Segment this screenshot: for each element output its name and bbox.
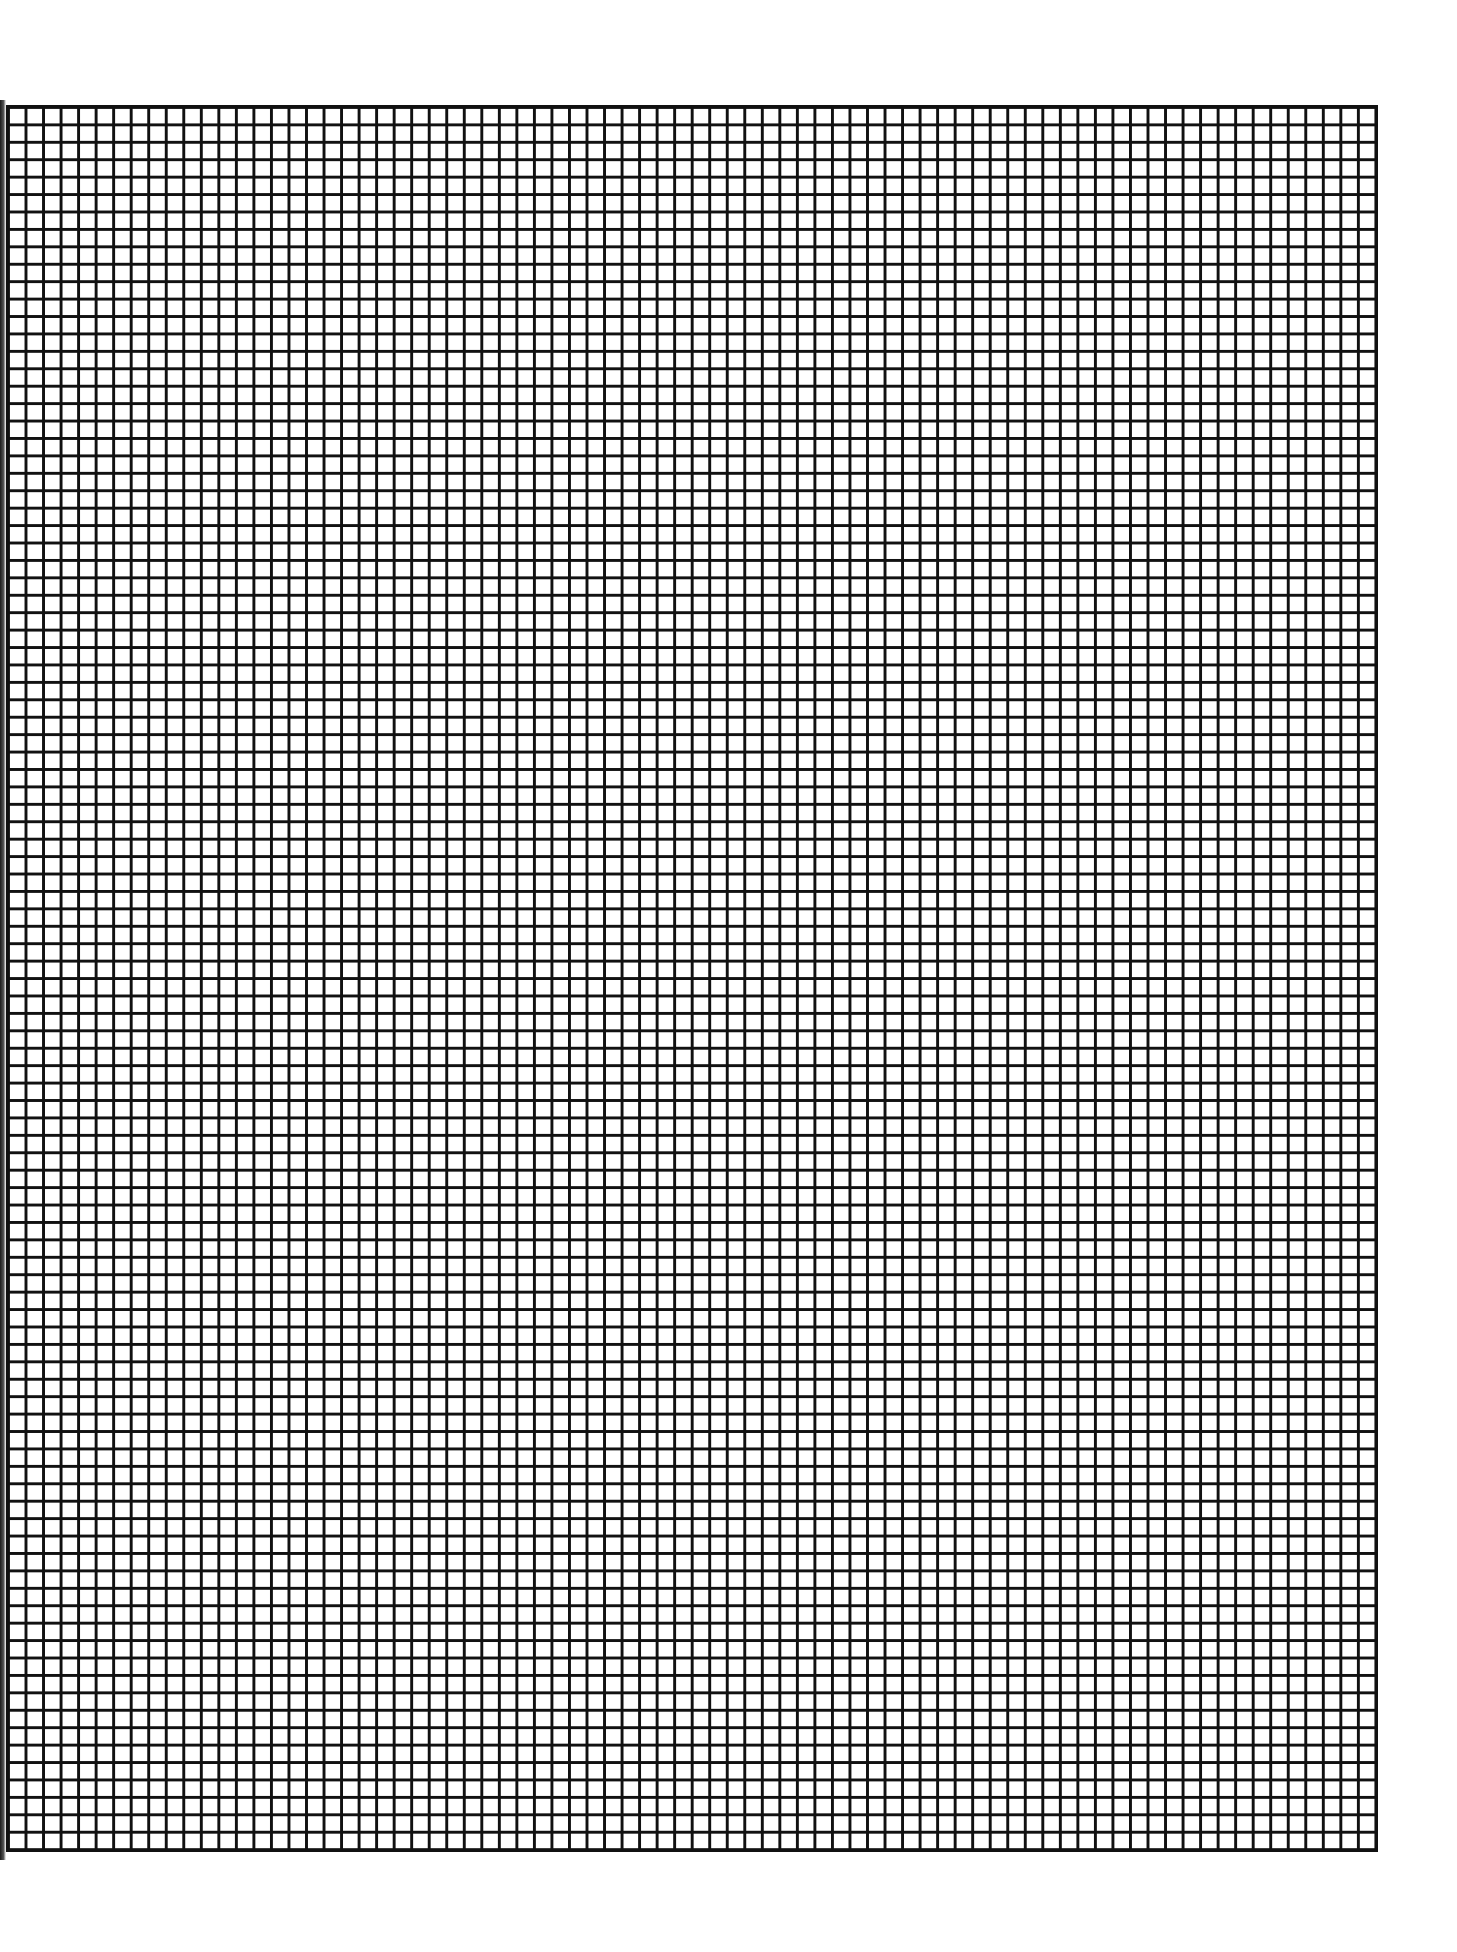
graph-grid <box>6 105 1378 1852</box>
graph-paper-page <box>0 0 1457 1952</box>
